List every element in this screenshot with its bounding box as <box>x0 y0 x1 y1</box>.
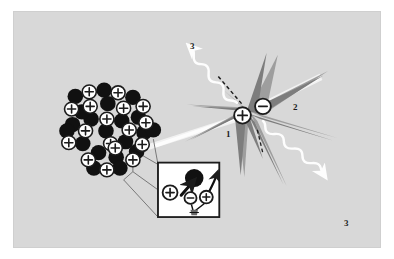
nucleon-proton <box>117 101 131 115</box>
label-1: 1 <box>226 130 231 139</box>
nucleon-neutron <box>96 82 112 97</box>
burst-electron <box>255 99 271 114</box>
nucleon-proton <box>100 163 114 177</box>
nucleon-proton <box>122 123 136 137</box>
nucleon-neutron <box>75 136 91 151</box>
figure-root: 1233 <box>0 0 394 259</box>
nucleon-proton <box>83 99 97 113</box>
label-2: 2 <box>293 103 298 112</box>
nucleon-proton <box>126 153 140 167</box>
nucleon-proton <box>135 138 149 152</box>
label-3-lower: 3 <box>344 219 349 228</box>
diagram-canvas <box>14 12 380 247</box>
nucleon-proton <box>136 99 150 113</box>
nucleon-proton <box>100 112 114 126</box>
nucleon-proton <box>82 85 96 99</box>
nucleon-proton <box>78 124 92 138</box>
burst-proton <box>234 107 251 123</box>
nucleon-proton <box>111 86 125 100</box>
gamma-ray-upper-left <box>192 49 237 103</box>
nucleon-proton <box>139 116 153 130</box>
nucleon-proton <box>65 102 79 116</box>
nucleon-proton <box>108 141 122 155</box>
magnified-detail-inset <box>158 163 219 217</box>
nucleon-proton <box>62 136 76 150</box>
label-3-upper: 3 <box>190 42 195 51</box>
diagram-panel: 1233 <box>13 11 381 248</box>
inset-neutron <box>185 169 204 187</box>
nucleon-proton <box>81 153 95 167</box>
atomic-nucleus-cluster <box>59 82 161 176</box>
